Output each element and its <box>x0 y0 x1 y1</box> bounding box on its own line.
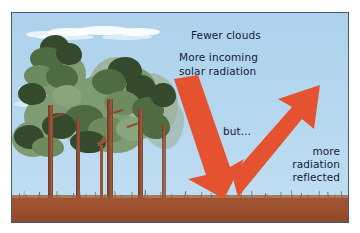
label-more: more <box>270 145 340 158</box>
ground <box>12 198 348 222</box>
label-more-incoming: More incoming <box>179 51 258 64</box>
label-fewer-clouds: Fewer clouds <box>191 29 261 42</box>
tree-group <box>12 13 182 203</box>
label-radiation: radiation <box>270 158 340 171</box>
label-but: but... <box>223 125 251 138</box>
illustration-figure: Fewer clouds More incoming solar radiati… <box>0 0 360 233</box>
illustration-panel: Fewer clouds More incoming solar radiati… <box>11 12 349 223</box>
label-reflected: reflected <box>270 171 340 184</box>
label-solar-radiation: solar radiation <box>179 65 256 78</box>
